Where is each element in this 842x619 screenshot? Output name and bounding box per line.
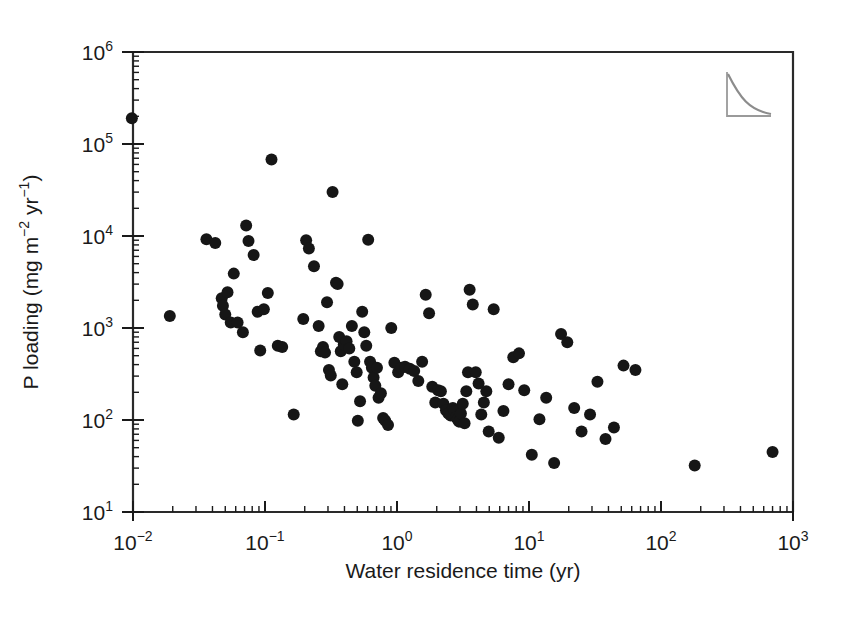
data-point <box>258 303 270 315</box>
data-point <box>240 220 252 232</box>
x-axis-label: Water residence time (yr) <box>346 559 581 582</box>
data-point <box>303 243 315 255</box>
data-point <box>354 395 366 407</box>
data-points <box>126 112 779 471</box>
y-tick-label: 104 <box>82 222 113 248</box>
data-point <box>332 278 344 290</box>
x-axis-label-text: Water residence time (yr) <box>346 559 581 582</box>
data-point <box>423 307 435 319</box>
data-point <box>420 289 432 301</box>
data-point <box>346 320 358 332</box>
data-point <box>385 322 397 334</box>
data-point <box>319 347 331 359</box>
data-point <box>276 341 288 353</box>
decay-curve-axes <box>727 72 771 116</box>
data-point <box>352 415 364 427</box>
data-point <box>358 326 370 338</box>
data-point <box>382 419 394 431</box>
y-tick-label: 106 <box>82 38 113 64</box>
data-point <box>561 336 573 348</box>
plot-frame-axes <box>133 52 793 512</box>
data-point <box>464 284 476 296</box>
decay-curve-icon <box>727 72 771 116</box>
data-point <box>126 112 138 124</box>
data-point <box>266 153 278 165</box>
data-point <box>351 366 363 378</box>
data-point <box>348 356 360 368</box>
data-point <box>327 186 339 198</box>
data-point <box>576 425 588 437</box>
data-point <box>470 366 482 378</box>
x-tick-label: 101 <box>513 528 544 554</box>
data-point <box>568 402 580 414</box>
data-point <box>591 376 603 388</box>
x-tick-label: 10−2 <box>113 528 153 554</box>
data-point <box>237 326 249 338</box>
x-tick-label: 100 <box>381 528 412 554</box>
data-point <box>608 421 620 433</box>
y-tick-label: 103 <box>82 314 113 340</box>
data-point <box>526 449 538 461</box>
data-point <box>459 417 471 429</box>
data-point <box>209 237 221 249</box>
data-point <box>533 413 545 425</box>
y-tick-label: 102 <box>82 406 113 432</box>
data-point <box>248 249 260 261</box>
data-point <box>375 387 387 399</box>
data-point <box>475 408 487 420</box>
data-point <box>313 320 325 332</box>
data-point <box>493 432 505 444</box>
data-point <box>460 385 472 397</box>
plot-frame-top-right <box>133 52 793 512</box>
y-axis-label: P loading (mg m−2 yr−1) <box>16 175 42 390</box>
figure-container: 10−210−1100101102103 101102103104105106 … <box>0 0 842 619</box>
data-point <box>618 360 630 372</box>
y-tick-label: 105 <box>82 130 113 156</box>
data-point <box>480 385 492 397</box>
data-point <box>228 268 240 280</box>
data-point <box>371 362 383 374</box>
data-point <box>518 384 530 396</box>
data-point <box>488 303 500 315</box>
data-point <box>222 286 234 298</box>
data-point <box>321 296 333 308</box>
decay-curve-path <box>728 74 771 114</box>
data-point <box>412 375 424 387</box>
data-point <box>497 405 509 417</box>
data-point <box>483 425 495 437</box>
data-point <box>243 235 255 247</box>
y-axis-label-text: P loading (mg m−2 yr−1) <box>16 175 42 390</box>
data-point <box>503 378 515 390</box>
x-tick-label: 103 <box>777 528 808 554</box>
data-point <box>308 260 320 272</box>
data-point <box>467 299 479 311</box>
data-point <box>584 408 596 420</box>
data-point <box>416 356 428 368</box>
data-point <box>513 347 525 359</box>
y-tick-label: 101 <box>82 498 113 524</box>
data-point <box>164 310 176 322</box>
data-point <box>362 234 374 246</box>
data-point <box>325 369 337 381</box>
x-tick-label: 10−1 <box>245 528 285 554</box>
plot-frame <box>133 52 793 512</box>
data-point <box>360 340 372 352</box>
data-point <box>767 446 779 458</box>
data-point <box>478 396 490 408</box>
data-point <box>457 398 469 410</box>
data-point <box>540 392 552 404</box>
data-point <box>600 433 612 445</box>
data-point <box>629 364 641 376</box>
x-axis-tick-labels: 10−210−1100101102103 <box>113 528 808 554</box>
data-point <box>435 385 447 397</box>
data-point <box>288 408 300 420</box>
data-point <box>254 344 266 356</box>
data-point <box>548 457 560 469</box>
data-point <box>356 306 368 318</box>
y-axis-tick-labels: 101102103104105106 <box>82 38 113 524</box>
x-tick-label: 102 <box>645 528 676 554</box>
data-point <box>262 287 274 299</box>
data-point <box>343 342 355 354</box>
data-point <box>336 378 348 390</box>
data-point <box>297 313 309 325</box>
